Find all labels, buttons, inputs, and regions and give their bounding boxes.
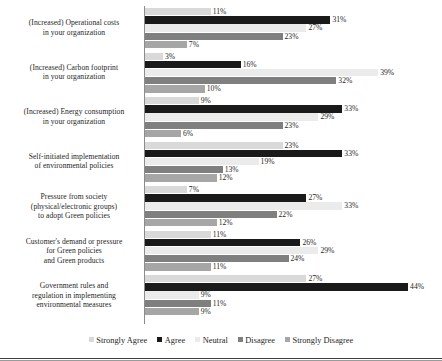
bar-row[interactable]: 16% <box>145 61 442 68</box>
bar-row[interactable]: 9% <box>145 291 442 298</box>
bar-segment[interactable] <box>145 41 187 48</box>
bar-row[interactable]: 23% <box>145 33 442 40</box>
bar-segment[interactable] <box>145 122 283 129</box>
bar-row[interactable]: 33% <box>145 105 442 112</box>
bar-row[interactable]: 6% <box>145 130 442 137</box>
bar-segment[interactable] <box>145 150 342 157</box>
bar-row[interactable]: 11% <box>145 8 442 15</box>
bar-row[interactable]: 24% <box>145 255 442 262</box>
legend-swatch-icon <box>285 337 290 342</box>
bar-value-label: 27% <box>306 24 322 31</box>
bar-segment[interactable] <box>145 16 330 23</box>
bar-segment[interactable] <box>145 97 199 104</box>
chart-legend: Strongly AgreeAgreeNeutralDisagreeStrong… <box>0 334 442 346</box>
legend-swatch-icon <box>157 337 162 342</box>
bar-segment[interactable] <box>145 283 408 290</box>
legend-item[interactable]: Strongly Disagree <box>285 334 353 346</box>
bar-segment[interactable] <box>145 202 342 209</box>
bar-row[interactable]: 9% <box>145 97 442 104</box>
bar-row[interactable]: 31% <box>145 16 442 23</box>
bar-row[interactable]: 44% <box>145 283 442 290</box>
bar-row[interactable]: 33% <box>145 150 442 157</box>
bar-row[interactable]: 11% <box>145 231 442 238</box>
category-label: Self-initiated implementationof environm… <box>3 152 145 171</box>
bar-segment[interactable] <box>145 186 187 193</box>
bar-segment[interactable] <box>145 231 211 238</box>
bar-value-label: 33% <box>342 202 358 209</box>
bar-row[interactable]: 39% <box>145 69 442 76</box>
bar-row[interactable]: 27% <box>145 24 442 31</box>
bar-segment[interactable] <box>145 85 205 92</box>
bar-stack: 7%27%33%22%12% <box>145 186 442 229</box>
legend-item[interactable]: Disagree <box>238 334 275 346</box>
bar-segment[interactable] <box>145 194 306 201</box>
bar-row[interactable]: 33% <box>145 202 442 209</box>
bar-row[interactable]: 23% <box>145 142 442 149</box>
bar-value-label: 26% <box>300 239 316 246</box>
bar-value-label: 3% <box>163 53 175 60</box>
bar-value-label: 23% <box>283 122 299 129</box>
bar-value-label: 33% <box>342 105 358 112</box>
bar-row[interactable]: 10% <box>145 85 442 92</box>
bar-segment[interactable] <box>145 130 181 137</box>
bar-segment[interactable] <box>145 174 217 181</box>
bar-segment[interactable] <box>145 105 342 112</box>
bar-segment[interactable] <box>145 263 211 270</box>
bar-row[interactable]: 29% <box>145 113 442 120</box>
bar-row[interactable]: 12% <box>145 174 442 181</box>
bar-segment[interactable] <box>145 166 223 173</box>
bar-row[interactable]: 7% <box>145 41 442 48</box>
bar-row[interactable]: 13% <box>145 166 442 173</box>
bar-segment[interactable] <box>145 158 259 165</box>
bar-row[interactable]: 27% <box>145 194 442 201</box>
bar-row[interactable]: 32% <box>145 77 442 84</box>
bar-value-label: 9% <box>199 308 211 315</box>
plot-area: (Increased) Operational costsin your org… <box>0 6 442 328</box>
bar-segment[interactable] <box>145 61 241 68</box>
bar-value-label: 23% <box>283 33 299 40</box>
category-label: (Increased) Operational costsin your org… <box>3 19 145 38</box>
bar-stack: 23%33%19%13%12% <box>145 142 442 185</box>
bottom-divider <box>0 358 442 359</box>
bar-value-label: 39% <box>378 69 394 76</box>
bar-row[interactable]: 3% <box>145 53 442 60</box>
bar-row[interactable]: 11% <box>145 263 442 270</box>
bar-segment[interactable] <box>145 219 217 226</box>
bar-segment[interactable] <box>145 24 306 31</box>
bar-segment[interactable] <box>145 33 283 40</box>
category-label: (Increased) Energy consumptionin your or… <box>3 108 145 127</box>
bar-segment[interactable] <box>145 211 277 218</box>
bar-segment[interactable] <box>145 77 336 84</box>
bar-row[interactable]: 26% <box>145 239 442 246</box>
bar-segment[interactable] <box>145 308 199 315</box>
bar-value-label: 31% <box>330 16 346 23</box>
bar-row[interactable]: 7% <box>145 186 442 193</box>
legend-item[interactable]: Neutral <box>195 334 228 346</box>
bar-row[interactable]: 12% <box>145 219 442 226</box>
legend-swatch-icon <box>195 337 200 342</box>
bar-stack: 3%16%39%32%10% <box>145 53 442 96</box>
bar-row[interactable]: 27% <box>145 275 442 282</box>
bar-row[interactable]: 19% <box>145 158 442 165</box>
legend-item[interactable]: Strongly Agree <box>89 334 147 346</box>
bar-row[interactable]: 9% <box>145 308 442 315</box>
bar-segment[interactable] <box>145 291 199 298</box>
bar-value-label: 16% <box>241 61 257 68</box>
bar-row[interactable]: 11% <box>145 300 442 307</box>
bar-chart: (Increased) Operational costsin your org… <box>0 0 442 361</box>
bar-segment[interactable] <box>145 239 300 246</box>
bar-value-label: 11% <box>211 263 227 270</box>
legend-swatch-icon <box>238 337 243 342</box>
bar-segment[interactable] <box>145 142 283 149</box>
legend-item[interactable]: Agree <box>157 334 185 346</box>
bar-segment[interactable] <box>145 53 163 60</box>
bar-segment[interactable] <box>145 8 211 15</box>
bar-value-label: 27% <box>306 194 322 201</box>
bar-value-label: 22% <box>277 211 293 218</box>
category-group: Government rules andregulation in implem… <box>0 273 442 318</box>
bar-segment[interactable] <box>145 275 306 282</box>
bar-row[interactable]: 23% <box>145 122 442 129</box>
bar-segment[interactable] <box>145 113 318 120</box>
bar-row[interactable]: 22% <box>145 211 442 218</box>
bar-segment[interactable] <box>145 300 211 307</box>
